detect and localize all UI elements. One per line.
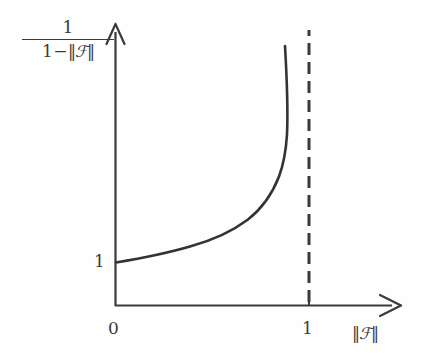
plot-canvas: [0, 0, 428, 364]
curve-reciprocal: [116, 46, 287, 263]
figure-container: 1 1−‖ℱ‖ ‖ℱ‖ 0 1 1: [0, 0, 428, 364]
x-axis: [115, 295, 401, 316]
